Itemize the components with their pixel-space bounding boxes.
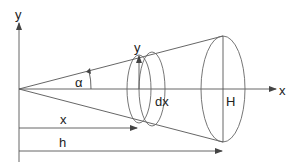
cone-lower-edge <box>19 89 223 142</box>
cone-diagram: y x H dx y α x h <box>0 0 299 164</box>
slice-radius-label: y <box>134 40 141 55</box>
slice-width-label: dx <box>155 94 169 109</box>
angle-label: α <box>75 75 83 90</box>
cone-upper-edge <box>19 36 223 89</box>
x-axis-label: x <box>279 83 286 98</box>
y-axis-label: y <box>15 7 22 22</box>
x-dimension-label: x <box>60 112 67 127</box>
diagram-svg: y x H dx y α x h <box>0 0 299 164</box>
h-dimension-label: h <box>59 135 66 150</box>
base-radius-label: H <box>226 94 235 109</box>
